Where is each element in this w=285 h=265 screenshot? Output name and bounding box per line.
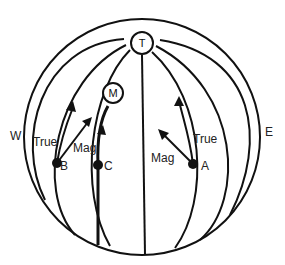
meridian [33,39,124,200]
meridian [55,45,126,235]
east-label: E [265,125,273,139]
globe-diagram: T M W E True Mag B C True Mag A [0,0,285,265]
true-label-b: True [33,135,58,149]
point-a-dot [188,159,198,169]
mag-label-b: Mag [73,141,96,155]
west-label: W [10,129,22,143]
point-b-label: B [60,159,68,173]
point-a-label: A [201,159,209,173]
true-arrow-a [180,105,193,164]
mag-label-a: Mag [151,151,174,165]
arrowhead-mag-b [82,117,92,127]
magnetic-pole-label: M [108,87,117,99]
meridian [142,55,145,255]
point-c-label: C [104,159,113,173]
true-label-a: True [193,132,218,146]
point-c-dot [93,160,103,170]
true-pole-label: T [139,37,146,49]
